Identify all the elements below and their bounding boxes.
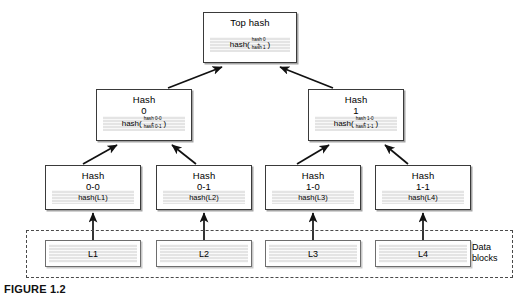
data-block-l3-label: L3 [308,249,318,259]
formula-args: hash 0 + hash 1 [251,38,267,51]
formula-arg-bottom: hash 1-1 [356,125,374,130]
node-hash-1-title-text: Hash [345,94,368,105]
formula-suffix: ) [376,119,379,128]
node-hash-0-1: Hash 0-1 hash(L2) [156,165,252,210]
node-hash-1-0-title-text: Hash [302,170,325,181]
data-blocks-label-line2: blocks [472,253,518,264]
node-hash-0-title-text: Hash [133,94,156,105]
node-hash-1-1-title-text: Hash [412,170,435,181]
data-block-l2: L2 [156,240,252,267]
node-top-hash-title-text: Top hash [230,17,269,28]
arrow-hash00-to-hash0 [83,145,117,164]
arrow-hash10-to-hash1 [297,145,329,164]
node-hash-1-subtitle: 1 [345,105,368,116]
node-hash-1-1-title: Hash 1-1 [412,166,435,192]
node-hash-0: Hash 0 hash( hash 0-0 + hash 0-1 ) [96,89,192,141]
formula-suffix: ) [164,119,167,128]
node-hash-1-0: Hash 1-0 hash(L3) [265,165,361,210]
data-block-l3: L3 [265,240,361,267]
node-hash-1-0-formula: hash(L3) [272,190,354,204]
node-hash-1-title: Hash 1 [345,90,368,116]
arrow-hash0-to-top [168,67,222,88]
data-block-l1: L1 [45,240,141,267]
arrow-hash1-to-top [280,67,333,88]
node-hash-1: Hash 1 hash( hash 1-0 + hash 1-1 ) [308,89,404,141]
node-hash-1-0-title: Hash 1-0 [302,166,325,192]
formula-args: hash 1-0 + hash 1-1 [355,117,375,130]
node-hash-0-1-title: Hash 0-1 [193,166,216,192]
node-hash-1-formula: hash( hash 1-0 + hash 1-1 ) [315,116,397,131]
formula-args: hash 0-0 + hash 0-1 [143,117,163,130]
data-block-l1-label: L1 [88,249,98,259]
node-hash-1-1: Hash 1-1 hash(L4) [375,165,471,210]
formula-prefix: hash( [334,119,354,128]
node-top-hash: Top hash hash( hash 0 + hash 1 ) [203,12,297,63]
data-blocks-label-line1: Data [472,242,518,253]
node-hash-0-1-formula: hash(L2) [163,190,245,204]
node-hash-0-0-formula: hash(L1) [52,190,134,204]
data-block-l2-label: L2 [199,249,209,259]
node-hash-1-1-formula: hash(L4) [382,190,464,204]
merkle-tree-figure: Top hash hash( hash 0 + hash 1 ) Hash 0 … [0,0,528,300]
node-hash-0-0: Hash 0-0 hash(L1) [45,165,141,210]
formula-prefix: hash( [230,40,250,49]
formula-arg-bottom: hash 1 [252,46,266,51]
data-blocks-label: Data blocks [472,242,518,264]
node-top-hash-formula: hash( hash 0 + hash 1 ) [210,37,290,52]
arrow-hash01-to-hash0 [172,145,196,164]
node-hash-0-0-title: Hash 0-0 [82,166,105,192]
figure-caption: FIGURE 1.2 [4,283,66,295]
node-hash-0-1-title-text: Hash [193,170,216,181]
arrow-hash11-to-hash1 [385,145,408,164]
formula-arg-bottom: hash 0-1 [144,125,162,130]
data-block-l4-label: L4 [418,249,428,259]
formula-suffix: ) [268,40,271,49]
node-hash-0-0-title-text: Hash [82,170,105,181]
node-hash-0-title: Hash 0 [133,90,156,116]
node-top-hash-title: Top hash [230,13,269,28]
node-hash-0-formula: hash( hash 0-0 + hash 0-1 ) [103,116,185,131]
formula-prefix: hash( [122,119,142,128]
node-hash-0-subtitle: 0 [133,105,156,116]
data-block-l4: L4 [375,240,471,267]
